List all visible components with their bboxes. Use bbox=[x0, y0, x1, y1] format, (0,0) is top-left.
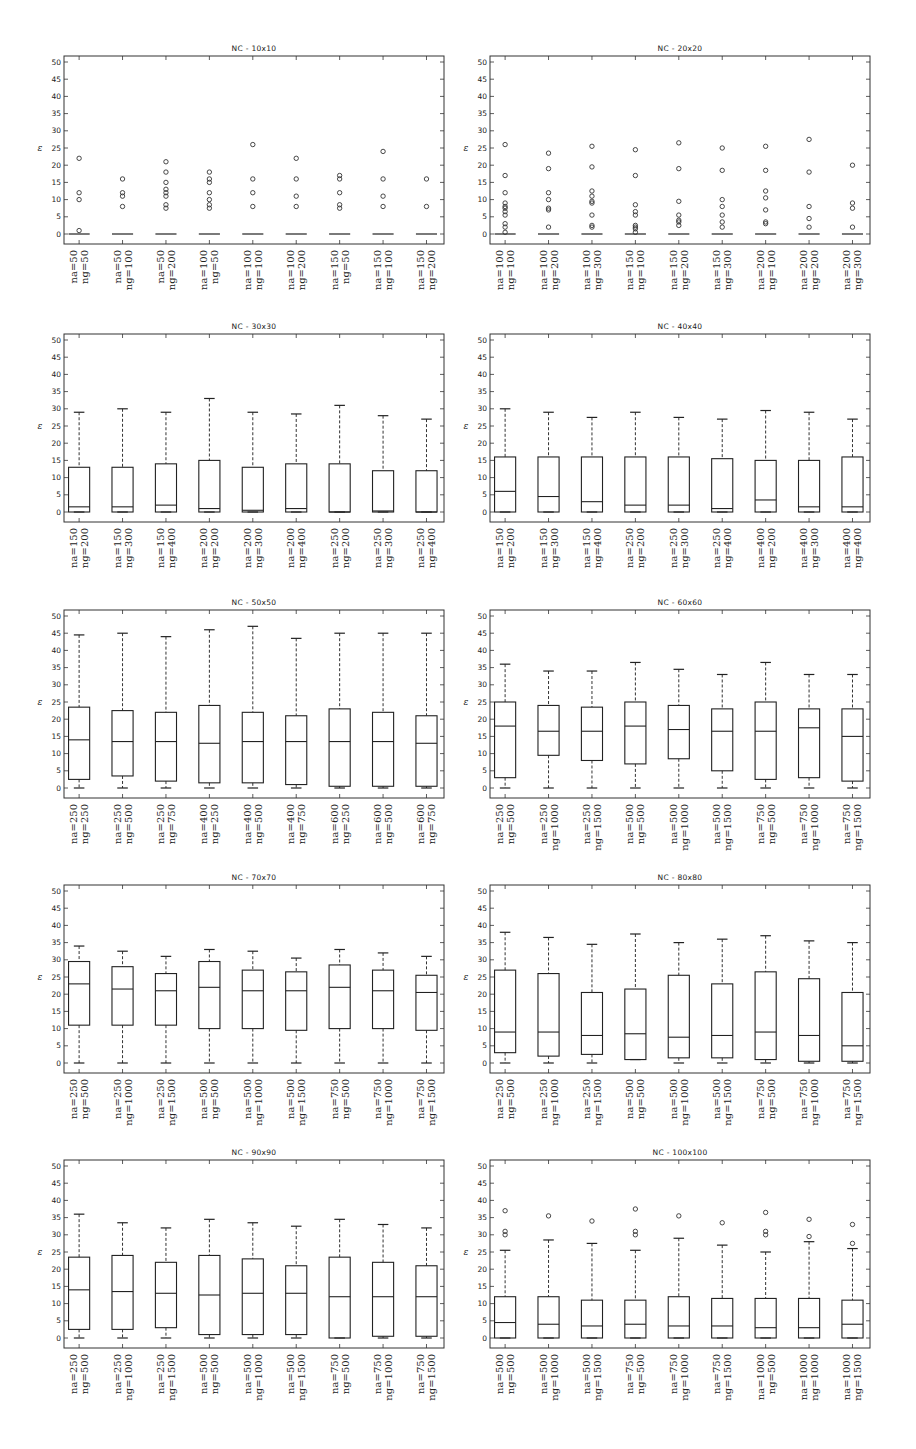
svg-text:na=250: na=250 bbox=[624, 528, 635, 568]
y-tick-label: 20 bbox=[51, 439, 61, 448]
box-8 bbox=[799, 941, 820, 1063]
outlier-point bbox=[590, 165, 594, 169]
y-tick-label: 30 bbox=[477, 680, 487, 689]
box-5 bbox=[668, 1214, 689, 1338]
box-8 bbox=[799, 674, 820, 788]
box-4 bbox=[625, 934, 646, 1060]
svg-text:na=500: na=500 bbox=[494, 1354, 505, 1394]
svg-text:na=100: na=100 bbox=[581, 250, 592, 290]
svg-text:ng=300: ng=300 bbox=[592, 250, 603, 290]
svg-text:na=100: na=100 bbox=[242, 250, 253, 290]
svg-text:ng=500: ng=500 bbox=[766, 1079, 777, 1119]
x-tick-label: na=750ng=1500 bbox=[415, 1079, 437, 1126]
svg-text:na=250: na=250 bbox=[538, 1079, 549, 1119]
svg-text:ng=1500: ng=1500 bbox=[592, 1354, 603, 1401]
outlier-point bbox=[590, 144, 594, 148]
x-tick-label: na=200ng=400 bbox=[285, 528, 307, 568]
box-4 bbox=[199, 949, 220, 1063]
box-9 bbox=[842, 674, 863, 788]
outlier-point bbox=[807, 170, 811, 174]
svg-text:ng=500: ng=500 bbox=[123, 804, 134, 844]
svg-text:na=150: na=150 bbox=[372, 250, 383, 290]
plot-frame bbox=[490, 1160, 870, 1348]
y-axis-label: ε bbox=[38, 697, 43, 707]
outlier-point bbox=[763, 196, 767, 200]
x-tick-label: na=200ng=200 bbox=[798, 250, 820, 290]
y-axis-label: ε bbox=[464, 697, 469, 707]
box-2 bbox=[112, 177, 133, 234]
x-tick-label: na=100ng=50 bbox=[198, 250, 220, 290]
outlier-point bbox=[251, 142, 255, 146]
outlier-point bbox=[677, 1214, 681, 1218]
outlier-point bbox=[294, 194, 298, 198]
svg-text:ng=1000: ng=1000 bbox=[123, 1079, 134, 1126]
svg-text:ng=250: ng=250 bbox=[340, 804, 351, 844]
panel-title: NC - 30x30 bbox=[232, 322, 277, 331]
svg-text:ng=200: ng=200 bbox=[635, 528, 646, 568]
outlier-point bbox=[77, 197, 81, 201]
svg-text:na=400: na=400 bbox=[285, 804, 296, 844]
svg-text:na=750: na=750 bbox=[372, 1354, 383, 1394]
y-tick-label: 35 bbox=[477, 938, 487, 947]
y-tick-label: 10 bbox=[51, 473, 61, 482]
outlier-point bbox=[633, 1207, 637, 1211]
box-5 bbox=[668, 417, 689, 512]
y-tick-label: 10 bbox=[51, 1299, 61, 1308]
outlier-point bbox=[251, 177, 255, 181]
box-9 bbox=[842, 419, 863, 512]
x-tick-label: na=250ng=400 bbox=[415, 528, 437, 568]
svg-text:ng=1500: ng=1500 bbox=[296, 1079, 307, 1126]
y-tick-label: 35 bbox=[51, 1213, 61, 1222]
x-tick-label: na=500ng=500 bbox=[624, 804, 646, 844]
box-8 bbox=[373, 1224, 394, 1338]
x-tick-label: na=150ng=300 bbox=[112, 528, 134, 568]
svg-text:na=250: na=250 bbox=[494, 1079, 505, 1119]
box-2 bbox=[538, 151, 559, 234]
svg-text:na=600: na=600 bbox=[415, 804, 426, 844]
outlier-point bbox=[677, 166, 681, 170]
y-tick-label: 15 bbox=[477, 1007, 487, 1016]
x-tick-label: na=100ng=100 bbox=[494, 250, 516, 290]
svg-text:na=400: na=400 bbox=[798, 528, 809, 568]
y-tick-label: 30 bbox=[477, 1230, 487, 1239]
y-tick-label: 35 bbox=[51, 387, 61, 396]
y-tick-label: 30 bbox=[51, 126, 61, 135]
x-tick-label: na=150ng=50 bbox=[329, 250, 351, 290]
x-tick-label: na=150ng=100 bbox=[624, 250, 646, 290]
y-tick-label: 5 bbox=[482, 1316, 487, 1325]
x-tick-label: na=150ng=200 bbox=[68, 528, 90, 568]
y-tick-label: 50 bbox=[51, 887, 61, 896]
svg-text:na=150: na=150 bbox=[581, 528, 592, 568]
y-tick-label: 20 bbox=[477, 990, 487, 999]
boxplot-panel-6: NC - 60x6005101520253035404550εna=250ng=… bbox=[450, 590, 890, 878]
outlier-point bbox=[503, 1209, 507, 1213]
svg-text:na=500: na=500 bbox=[624, 1079, 635, 1119]
svg-text:na=500: na=500 bbox=[242, 1354, 253, 1394]
x-tick-label: na=750ng=1500 bbox=[415, 1354, 437, 1401]
svg-text:ng=1000: ng=1000 bbox=[123, 1354, 134, 1401]
x-tick-label: na=750ng=1000 bbox=[372, 1079, 394, 1126]
x-tick-label: na=250ng=250 bbox=[68, 804, 90, 844]
svg-text:na=150: na=150 bbox=[538, 528, 549, 568]
svg-text:ng=500: ng=500 bbox=[635, 804, 646, 844]
svg-text:na=50: na=50 bbox=[68, 250, 79, 284]
svg-text:ng=1000: ng=1000 bbox=[549, 804, 560, 851]
svg-text:ng=200: ng=200 bbox=[679, 250, 690, 290]
svg-text:ng=100: ng=100 bbox=[123, 250, 134, 290]
boxplot-panel-9: NC - 90x9005101520253035404550εna=250ng=… bbox=[24, 1140, 464, 1428]
y-tick-label: 50 bbox=[51, 58, 61, 67]
svg-text:ng=1000: ng=1000 bbox=[549, 1354, 560, 1401]
x-tick-label: na=250ng=1000 bbox=[112, 1354, 134, 1401]
x-tick-label: na=100ng=100 bbox=[242, 250, 264, 290]
y-tick-label: 0 bbox=[482, 1334, 487, 1343]
x-tick-label: na=750ng=1500 bbox=[841, 1079, 863, 1126]
y-tick-label: 20 bbox=[51, 715, 61, 724]
x-tick-label: na=250ng=1000 bbox=[538, 804, 560, 851]
outlier-point bbox=[381, 177, 385, 181]
svg-text:ng=50: ng=50 bbox=[209, 250, 220, 284]
y-tick-label: 40 bbox=[51, 646, 61, 655]
svg-text:ng=1000: ng=1000 bbox=[549, 1079, 560, 1126]
svg-text:na=250: na=250 bbox=[581, 804, 592, 844]
box-3 bbox=[581, 944, 602, 1063]
svg-text:na=250: na=250 bbox=[68, 804, 79, 844]
